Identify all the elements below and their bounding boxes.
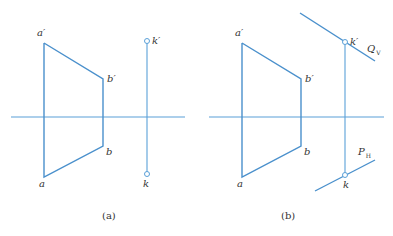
label-k: k — [143, 178, 149, 189]
line-ab-projections-b — [242, 43, 301, 177]
label-k-prime: k′ — [350, 36, 359, 47]
caption-a: (a) — [102, 210, 116, 221]
point-k-marker-a — [145, 172, 150, 177]
label-a-prime: a′ — [235, 27, 244, 38]
label-q-v: QV — [367, 43, 381, 56]
plane-q-v-trace — [300, 13, 375, 61]
line-ab-projections-a — [44, 43, 103, 177]
label-a-prime: a′ — [37, 27, 46, 38]
label-a: a — [237, 178, 243, 189]
point-k-prime-marker-b — [343, 40, 348, 45]
label-b-prime: b′ — [305, 73, 314, 84]
label-b-prime: b′ — [107, 73, 116, 84]
caption-b: (b) — [281, 210, 295, 221]
panel-b: a′ b′ b a k′ k QV PH (b) — [209, 13, 384, 221]
label-p-h: PH — [357, 146, 371, 159]
label-k-prime: k′ — [152, 35, 161, 46]
panel-a: a′ b′ b a k′ k (a) — [11, 27, 185, 221]
diagram-canvas: a′ b′ b a k′ k (a) a′ b′ b a k′ k QV PH … — [0, 0, 393, 236]
label-k: k — [343, 179, 349, 190]
label-b: b — [106, 146, 112, 157]
point-k-prime-marker-a — [145, 39, 150, 44]
projection-diagram: a′ b′ b a k′ k (a) a′ b′ b a k′ k QV PH … — [0, 0, 393, 236]
point-k-marker-b — [343, 173, 348, 178]
label-a: a — [39, 178, 45, 189]
label-b: b — [304, 146, 310, 157]
